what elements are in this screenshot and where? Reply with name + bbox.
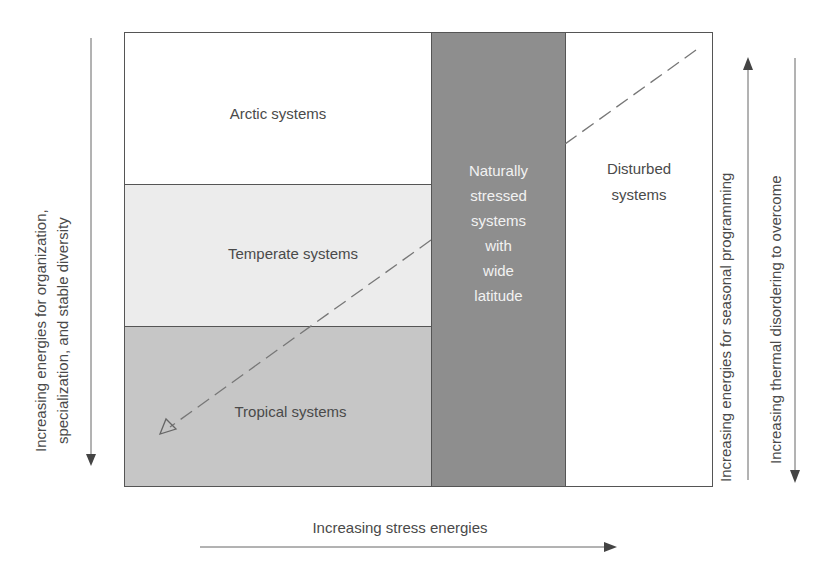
stressed-label-line: latitude xyxy=(431,283,566,308)
stressed-label-line: systems xyxy=(431,208,566,233)
stressed-label-line: wide xyxy=(431,258,566,283)
stressed-label-line: stressed xyxy=(431,183,566,208)
disturbed-label-line: systems xyxy=(565,182,713,208)
disturbed-label: Disturbed systems xyxy=(565,156,713,208)
right-outer-axis-label: Increasing thermal disordering to overco… xyxy=(766,176,786,464)
stressed-label-line: with xyxy=(431,233,566,258)
bottom-axis-label: Increasing stress energies xyxy=(200,518,600,537)
disturbed-label-line: Disturbed xyxy=(565,156,713,182)
left-axis-label-line: specialization, and stable diversity xyxy=(52,209,74,452)
left-axis-label-line: Increasing energies for organization, xyxy=(30,209,52,452)
arctic-label: Arctic systems xyxy=(124,104,432,123)
tropical-label: Tropical systems xyxy=(124,402,432,421)
left-axis-label: Increasing energies for organization, sp… xyxy=(30,209,74,452)
temperate-label: Temperate systems xyxy=(124,244,432,263)
stressed-label: Naturally stressed systems with wide lat… xyxy=(431,158,566,308)
stressed-label-line: Naturally xyxy=(431,158,566,183)
right-inner-axis-label: Increasing energies for seasonal program… xyxy=(716,173,736,482)
diagram-arrows xyxy=(0,0,834,574)
